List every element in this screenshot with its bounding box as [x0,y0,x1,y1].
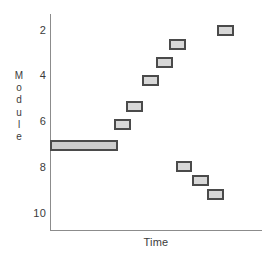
data-marker [192,175,209,186]
data-marker [126,101,143,112]
data-marker [156,57,173,68]
data-marker [207,189,224,200]
data-bar-wide [50,140,118,151]
chart-container: 246810 Module Time [0,0,274,255]
plot-area [0,0,274,255]
data-marker [114,119,131,130]
data-marker [169,39,186,50]
data-marker [176,161,193,172]
data-marker [217,25,234,36]
data-marker [142,75,159,86]
